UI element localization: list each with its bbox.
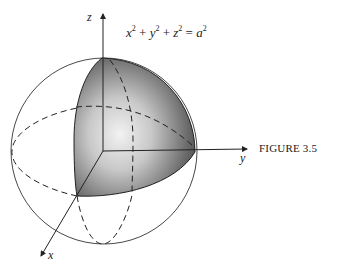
sphere-octant-figure: z y x x2 + y2 + z2 = a2 FIGURE 3.5	[0, 0, 339, 264]
x-axis	[41, 151, 103, 256]
y-axis-label: y	[240, 151, 245, 166]
x-axis-label: x	[48, 248, 53, 263]
meridian-dashed-lower	[77, 195, 132, 244]
shaded-octant	[74, 58, 195, 196]
z-axis-label: z	[87, 10, 92, 25]
sphere-equation: x2 + y2 + z2 = a2	[126, 24, 207, 41]
figure-caption: FIGURE 3.5	[259, 142, 317, 154]
